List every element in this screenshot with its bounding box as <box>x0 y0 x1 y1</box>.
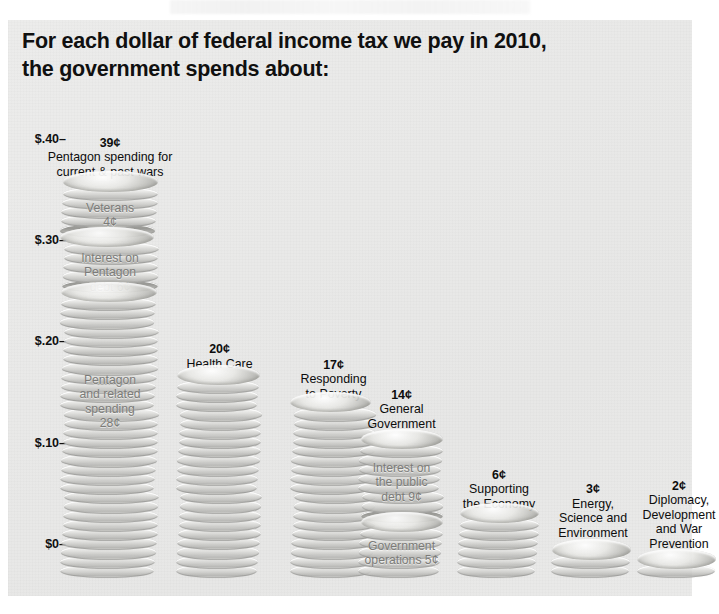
coin-stack-diplomacy <box>639 555 719 578</box>
coin-stack-economy <box>459 515 539 578</box>
bar-label-pentagon-1: Pentagon spending for <box>48 150 173 164</box>
coin-stack-energy <box>553 544 633 578</box>
coin-disc <box>361 512 444 532</box>
bar-label-energy-1: Energy, <box>558 497 628 511</box>
coin-disc <box>460 503 539 523</box>
bar-label-diplomacy-3: and War <box>642 522 715 536</box>
bar-value-diplomacy: 2¢ <box>642 479 715 493</box>
bar-label-diplomacy-1: Diplomacy, <box>642 493 715 507</box>
bar-label-poverty-1: Responding <box>300 372 366 386</box>
bar-label-energy-2: Science and <box>558 511 628 525</box>
bar-value-energy: 3¢ <box>558 482 628 496</box>
y-axis-tick-0: $0– <box>10 537 66 551</box>
coin-disc <box>637 549 716 569</box>
bar-caption-diplomacy: 2¢ Diplomacy, Development and War Preven… <box>642 479 715 551</box>
bar-value-pentagon: 39¢ <box>48 136 173 150</box>
bar-column-general-government[interactable]: 14¢ General Government Interest on the p… <box>360 435 443 578</box>
coin-disc <box>61 282 157 302</box>
scan-bleed-artifact <box>170 0 530 14</box>
bar-label-energy-3: Environment <box>558 526 628 540</box>
chart-plot-area: $.40– $.30– $.20– $.10– $0– 39¢ Pentagon… <box>8 20 692 596</box>
bar-column-energy[interactable]: 3¢ Energy, Science and Environment <box>553 544 633 578</box>
coin-disc <box>60 227 154 247</box>
bar-value-poverty: 17¢ <box>300 358 366 372</box>
bar-caption-general-government: 14¢ General Government <box>367 388 435 431</box>
coin-disc <box>177 365 260 385</box>
bar-value-health-care: 20¢ <box>186 342 252 356</box>
y-axis-tick-30: $.30– <box>10 233 66 247</box>
coin-disc <box>552 539 631 559</box>
y-axis-tick-10: $.10– <box>10 436 66 450</box>
bar-column-diplomacy[interactable]: 2¢ Diplomacy, Development and War Preven… <box>639 555 719 578</box>
coin-stack-health-care <box>178 375 261 578</box>
bar-column-pentagon[interactable]: 39¢ Pentagon spending for current & past… <box>62 183 158 578</box>
bar-caption-energy: 3¢ Energy, Science and Environment <box>558 482 628 540</box>
coin-stack-pentagon <box>62 183 158 578</box>
bar-label-general-government-1: General <box>367 402 435 416</box>
coin-disc <box>63 171 158 191</box>
bar-value-general-government: 14¢ <box>367 388 435 402</box>
coin-stack-general-government <box>360 435 443 578</box>
bar-column-health-care[interactable]: 20¢ Health Care <box>178 375 261 578</box>
bar-label-economy-1: Supporting <box>463 482 535 496</box>
bar-value-economy: 6¢ <box>463 468 535 482</box>
bar-column-economy[interactable]: 6¢ Supporting the Economy <box>459 515 539 578</box>
y-axis-tick-20: $.20– <box>10 334 66 348</box>
bar-label-diplomacy-2: Development <box>642 508 715 522</box>
